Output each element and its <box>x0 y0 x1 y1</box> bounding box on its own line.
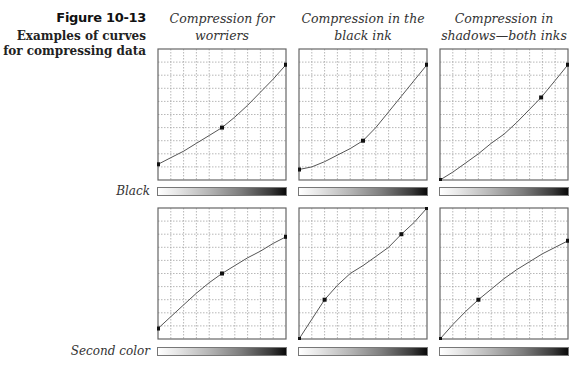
column-title-line: black ink <box>293 27 433 44</box>
curve-panel-second-black-ink <box>298 207 428 340</box>
gradient-bar <box>298 347 428 356</box>
gradient-bar <box>439 347 569 356</box>
figure-caption: Examples of curves for compressing data <box>0 29 146 59</box>
row-label-second-color: Second color <box>71 344 150 358</box>
gradient-bar <box>157 187 287 196</box>
column-title-line: Compression in <box>434 10 574 27</box>
column-title-line: Compression for <box>152 10 292 27</box>
column-title-line: Compression in the <box>293 10 433 27</box>
curve-panel-black-black-ink <box>298 48 428 181</box>
gradient-bar <box>298 187 428 196</box>
column-title-line: worriers <box>152 27 292 44</box>
row-label-black: Black <box>116 184 150 198</box>
gradient-bar <box>157 347 287 356</box>
curve-panel-second-shadows <box>439 207 569 340</box>
column-title-line: shadows—both inks <box>434 27 574 44</box>
gradient-bar <box>439 187 569 196</box>
figure-number: Figure 10-13 <box>56 10 146 25</box>
curve-panel-black-worriers <box>157 48 287 181</box>
curve-panel-second-worriers <box>157 207 287 340</box>
column-title-shadows: Compression in shadows—both inks <box>434 10 574 44</box>
curve-panel-black-shadows <box>439 48 569 181</box>
column-title-worriers: Compression for worriers <box>152 10 292 44</box>
column-title-black-ink: Compression in the black ink <box>293 10 433 44</box>
